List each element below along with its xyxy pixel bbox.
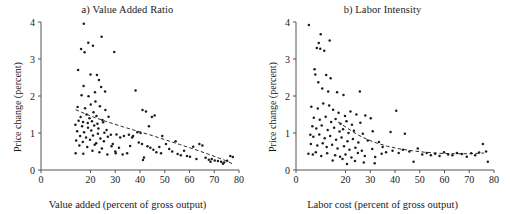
data-point	[354, 160, 357, 163]
data-point	[90, 129, 93, 132]
data-point	[209, 161, 212, 164]
data-point	[174, 140, 177, 143]
data-point	[363, 161, 366, 164]
data-point	[342, 128, 345, 131]
data-point	[100, 86, 103, 89]
data-point	[321, 142, 324, 145]
x-tick-label: 40	[390, 174, 400, 185]
data-point	[180, 154, 183, 157]
data-point	[158, 146, 161, 149]
x-tick-label: 50	[415, 174, 425, 185]
data-point	[355, 113, 358, 116]
data-point	[82, 121, 85, 124]
data-point	[98, 151, 101, 154]
data-point	[335, 138, 338, 141]
data-point	[326, 129, 329, 132]
x-tick-label: 40	[135, 174, 145, 185]
data-point	[315, 127, 318, 130]
data-point	[126, 152, 129, 155]
data-point	[97, 127, 100, 130]
panel-b-trendline	[338, 122, 484, 154]
data-point	[100, 36, 103, 39]
data-point	[350, 156, 353, 159]
data-point	[110, 134, 113, 137]
data-point	[165, 143, 168, 146]
data-point	[220, 161, 223, 164]
x-tick-label: 80	[489, 174, 499, 185]
y-tick-label: 3	[30, 54, 35, 65]
data-point	[89, 138, 92, 141]
data-point	[485, 150, 488, 153]
data-point	[417, 147, 420, 150]
data-point	[86, 146, 89, 149]
data-point	[94, 100, 97, 103]
data-point	[104, 90, 107, 93]
data-point	[92, 134, 95, 137]
data-point	[151, 116, 154, 119]
data-point	[334, 154, 337, 157]
data-point	[83, 51, 86, 54]
data-point	[309, 134, 312, 137]
x-tick-label: 50	[160, 174, 170, 185]
x-tick-label: 70	[209, 174, 219, 185]
data-point	[320, 33, 323, 36]
panel-b-y-ticks: 01234	[285, 17, 296, 176]
data-point	[367, 139, 370, 142]
panel-b-data-points	[307, 24, 489, 166]
data-point	[102, 121, 105, 124]
data-point	[328, 104, 331, 107]
data-point	[421, 153, 424, 156]
x-tick-label: 30	[110, 174, 120, 185]
data-point	[325, 146, 328, 149]
data-point	[349, 110, 352, 113]
data-point	[128, 134, 131, 137]
data-point	[354, 147, 357, 150]
data-point	[171, 150, 174, 153]
data-point	[346, 163, 349, 166]
data-point	[378, 141, 381, 144]
data-point	[77, 120, 80, 123]
x-tick-label: 60	[440, 174, 450, 185]
panel-b-x-axis-label: Labor cost (percent of gross output)	[255, 199, 510, 210]
data-point	[115, 133, 118, 136]
data-point	[92, 44, 95, 47]
data-point	[310, 105, 313, 108]
data-point	[95, 115, 98, 118]
data-point	[93, 144, 96, 147]
data-point	[79, 116, 82, 119]
y-tick-label: 4	[285, 17, 290, 28]
y-tick-label: 2	[30, 91, 35, 102]
data-point	[83, 23, 86, 26]
data-point	[325, 74, 328, 77]
x-tick-label: 80	[234, 174, 244, 185]
data-point	[138, 141, 141, 144]
data-point	[391, 150, 394, 153]
data-point	[322, 102, 325, 105]
data-point	[103, 140, 106, 143]
x-tick-label: 20	[341, 174, 351, 185]
data-point	[176, 153, 179, 156]
data-point	[85, 136, 88, 139]
data-point	[374, 156, 377, 159]
data-point	[198, 143, 201, 146]
panel-a-plot: 01234 020304050607080	[0, 0, 255, 214]
data-point	[149, 147, 152, 150]
data-point	[143, 156, 146, 159]
data-point	[101, 147, 104, 150]
data-point	[232, 156, 235, 159]
data-point	[330, 121, 333, 124]
data-point	[313, 117, 316, 120]
data-point	[328, 39, 331, 42]
data-point	[348, 148, 351, 151]
data-point	[353, 130, 356, 133]
data-point	[326, 152, 329, 155]
data-point	[344, 115, 347, 118]
data-point	[316, 47, 319, 50]
data-point	[329, 77, 332, 80]
data-point	[482, 143, 485, 146]
data-point	[357, 152, 360, 155]
x-tick-label: 70	[464, 174, 474, 185]
data-point	[438, 155, 441, 158]
data-point	[487, 161, 490, 164]
data-point	[123, 135, 126, 138]
